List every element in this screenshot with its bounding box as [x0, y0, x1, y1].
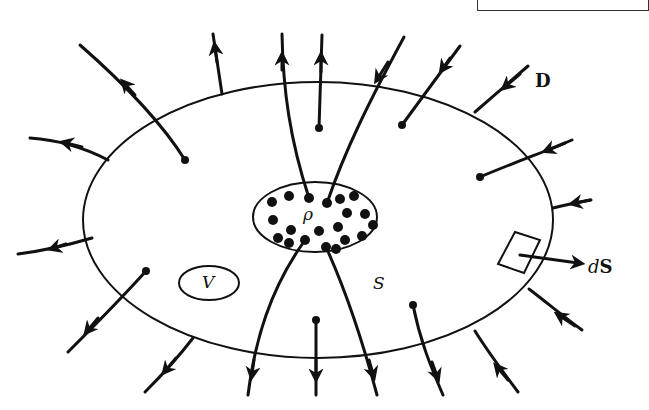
- area-element-S: S: [600, 256, 613, 277]
- caption-box-frame: [477, 0, 649, 11]
- area-element-d: d: [588, 256, 600, 277]
- charge-dots: [267, 191, 378, 254]
- line-origin-dots: [142, 121, 484, 324]
- surface-label-S: S: [373, 273, 385, 293]
- charge-density-label: ρ: [303, 204, 313, 224]
- area-element-label: dS: [588, 256, 613, 277]
- volume-label-V: V: [202, 272, 214, 292]
- field-label-D: D: [535, 70, 551, 91]
